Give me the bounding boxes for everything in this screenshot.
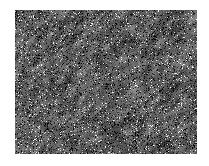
speckle-texture-canvas: [15, 10, 197, 154]
figure-root: [0, 0, 209, 166]
speckle-texture-panel: [15, 10, 197, 154]
